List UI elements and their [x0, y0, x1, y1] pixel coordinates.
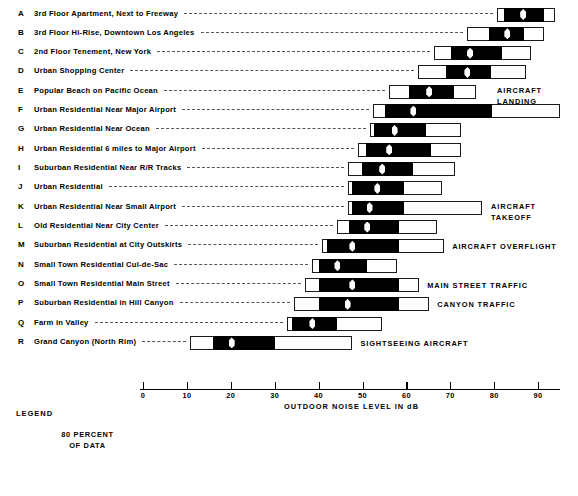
chart-row: JUrban Residential [0, 181, 578, 200]
row-key-r: R [18, 336, 30, 347]
chart-row: A3rd Floor Apartment, Next to Freeway [0, 8, 578, 27]
row-label: Grand Canyon (North Rim) [34, 336, 136, 347]
row-label: 2nd Floor Tenement, New York [34, 46, 151, 57]
leader-line [95, 322, 283, 324]
legend-caption-line1: 80 PERCENT [47, 429, 128, 440]
row-key-m: M [18, 239, 30, 250]
row-label: Suburban Residential in Hill Canyon [34, 297, 174, 308]
chart-row: MSuburban Residential at City OutskirtsA… [0, 239, 578, 258]
bar-annotation: MAIN STREET TRAFFIC [427, 280, 528, 291]
legend-caption: 80 PERCENT OF DATA [47, 429, 128, 451]
chart-row: OSmall Town Residential Main StreetMAIN … [0, 278, 578, 297]
box-80-percent [385, 104, 492, 118]
row-label: Old Residential Near City Center [34, 220, 159, 231]
box-80-percent [362, 162, 414, 176]
leader-line [182, 109, 369, 111]
chart-row: NSmall Town Residential Cul-de-Sac [0, 259, 578, 278]
box-80-percent [319, 297, 399, 311]
box-80-percent [451, 46, 502, 60]
leader-line [201, 32, 464, 34]
leader-line [157, 51, 430, 53]
row-key-b: B [18, 27, 30, 38]
leader-line [109, 186, 344, 188]
chart-row: C2nd Floor Tenement, New York [0, 46, 578, 65]
row-key-i: I [18, 162, 30, 173]
chart-row: RGrand Canyon (North Rim)SIGHTSEEING AIR… [0, 336, 578, 355]
box-80-percent [319, 278, 399, 292]
row-key-n: N [18, 259, 30, 270]
row-key-c: C [18, 46, 30, 57]
leader-line [188, 244, 317, 246]
legend-title: LEGEND [16, 409, 53, 418]
bar-annotation: AIRCRAFT OVERFLIGHT [452, 241, 557, 252]
row-key-f: F [18, 104, 30, 115]
axis-tick-label: 40 [308, 391, 330, 400]
axis-tick-label: 0 [132, 391, 154, 400]
bar-annotation: SIGHTSEEING AIRCRAFT [360, 338, 468, 349]
leader-line [187, 167, 343, 169]
row-label: Urban Residential Near Small Airport [34, 201, 176, 212]
row-key-a: A [18, 8, 30, 19]
chart-row: QFarm in Valley [0, 317, 578, 336]
axis-tick [406, 382, 407, 389]
chart-row: GUrban Residential Near Ocean [0, 123, 578, 142]
box-80-percent [352, 201, 405, 215]
row-label: Popular Beach on Pacific Ocean [34, 85, 158, 96]
leader-line [180, 302, 291, 304]
bar-annotation: CANYON TRAFFIC [437, 299, 515, 310]
chart-row: LOld Residential Near City Center [0, 220, 578, 239]
row-label: 3rd Floor Apartment, Next to Freeway [34, 8, 178, 19]
axis-tick-label: 70 [439, 391, 461, 400]
axis-tick-label: 50 [352, 391, 374, 400]
row-label: Urban Shopping Center [34, 65, 124, 76]
axis-tick [494, 382, 495, 389]
row-label: Small Town Residential Cul-de-Sac [34, 259, 168, 270]
row-label: Farm in Valley [34, 317, 89, 328]
box-80-percent [349, 220, 399, 234]
chart-row: DUrban Shopping Center [0, 65, 578, 84]
axis-tick [363, 382, 364, 389]
row-key-j: J [18, 181, 30, 192]
axis-baseline [140, 389, 560, 390]
row-key-d: D [18, 65, 30, 76]
row-label: Suburban Residential at City Outskirts [34, 239, 182, 250]
chart-row: B3rd Floor Hi-Rise, Downtown Los Angeles [0, 27, 578, 46]
leader-line [165, 225, 333, 227]
row-label: Urban Residential Near Ocean [34, 123, 150, 134]
row-label: Small Town Residential Main Street [34, 278, 170, 289]
row-key-g: G [18, 123, 30, 134]
row-label: 3rd Floor Hi-Rise, Downtown Los Angeles [34, 27, 195, 38]
row-key-e: E [18, 85, 30, 96]
row-key-k: K [18, 201, 30, 212]
row-key-o: O [18, 278, 30, 289]
leader-line [164, 90, 385, 92]
chart-row: FUrban Residential Near Major Airport [0, 104, 578, 123]
leader-line [142, 341, 186, 343]
box-80-percent [366, 143, 431, 157]
chart-row: KUrban Residential Near Small AirportAIR… [0, 201, 578, 220]
axis-tick-label: 80 [483, 391, 505, 400]
axis-tick [319, 382, 320, 389]
box-80-percent [319, 259, 367, 273]
chart-row: ISuburban Residential Near R/R Tracks [0, 162, 578, 181]
row-key-q: Q [18, 317, 30, 328]
box-80-percent [213, 336, 275, 350]
axis-tick-label: 60 [395, 391, 417, 400]
row-label: Urban Residential [34, 181, 103, 192]
row-label: Urban Residential Near Major Airport [34, 104, 176, 115]
leader-line [156, 128, 366, 130]
legend: LEGEND 80 PERCENT OF DATA 999050101 [0, 405, 230, 496]
leader-line [176, 283, 301, 285]
chart-row: EPopular Beach on Pacific OceanAIRCRAFTL… [0, 85, 578, 104]
box-80-percent [327, 239, 400, 253]
row-key-p: P [18, 297, 30, 308]
axis-tick-label: 30 [264, 391, 286, 400]
axis-tick [538, 382, 539, 389]
chart-row: PSuburban Residential in Hill CanyonCANY… [0, 297, 578, 316]
axis-tick-label: 10 [176, 391, 198, 400]
row-key-l: L [18, 220, 30, 231]
leader-line [174, 264, 308, 266]
leader-line [202, 148, 354, 150]
axis-tick [275, 382, 276, 389]
axis-tick [231, 382, 232, 389]
